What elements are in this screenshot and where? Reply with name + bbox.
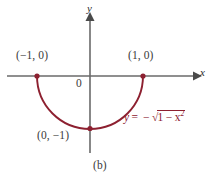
equation-minus: − <box>141 111 152 123</box>
point-label-right-endpoint: (1, 0) <box>128 50 154 62</box>
point-marker-right <box>140 73 145 78</box>
radicand-exponent: 2 <box>181 109 185 118</box>
equation-label: y = − √1 − x2 <box>124 112 185 124</box>
y-axis-label: y <box>87 3 92 14</box>
origin-label: 0 <box>76 78 82 90</box>
figure-container: (−1, 0) (1, 0) (0, −1) 0 x y y = − √1 − … <box>0 0 213 183</box>
radicand-minus: − <box>163 111 174 123</box>
point-label-bottom-vertex: (0, −1) <box>37 130 69 142</box>
radicand: 1 − x2 <box>157 110 185 123</box>
x-axis-label: x <box>200 67 205 78</box>
point-marker-bottom <box>87 126 92 131</box>
equation-equals: = <box>129 111 140 123</box>
point-marker-left <box>34 73 39 78</box>
figure-caption: (b) <box>93 160 107 172</box>
graph-canvas <box>0 0 213 183</box>
point-label-left-endpoint: (−1, 0) <box>16 50 48 62</box>
